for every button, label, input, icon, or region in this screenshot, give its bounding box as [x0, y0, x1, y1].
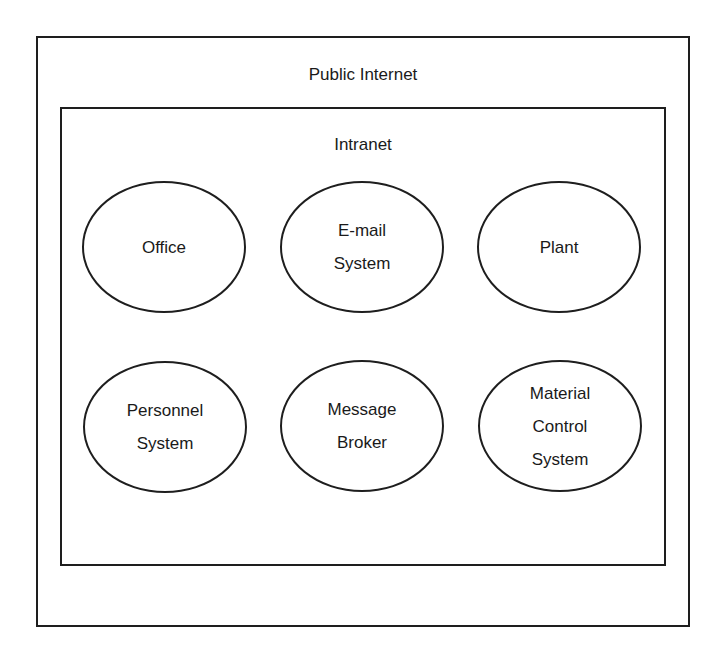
node-label: Message — [328, 393, 397, 426]
public-internet-label: Public Internet — [36, 65, 690, 85]
node-office: Office — [82, 181, 246, 313]
node-email-system: E-mail System — [280, 181, 444, 313]
node-material-control-system: Material Control System — [478, 360, 642, 492]
node-label: System — [532, 443, 589, 476]
node-label: System — [137, 427, 194, 460]
node-label: Personnel — [127, 394, 204, 427]
intranet-label: Intranet — [60, 135, 666, 155]
node-label: System — [334, 247, 391, 280]
node-label: Broker — [337, 426, 387, 459]
node-label: Office — [142, 231, 186, 264]
intranet-zone — [60, 107, 666, 566]
node-message-broker: Message Broker — [280, 360, 444, 492]
node-personnel-system: Personnel System — [83, 361, 247, 493]
node-label: Material — [530, 377, 590, 410]
node-label: Control — [533, 410, 588, 443]
node-label: E-mail — [338, 214, 386, 247]
node-plant: Plant — [477, 181, 641, 313]
node-label: Plant — [540, 231, 579, 264]
